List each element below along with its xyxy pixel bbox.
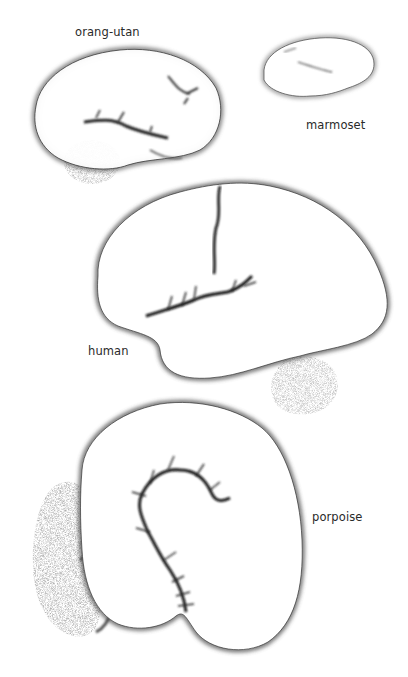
- human-brain: [98, 183, 388, 414]
- porpoise-brain: [33, 402, 302, 649]
- marmoset-brain: [264, 38, 374, 97]
- orangutan-brain: [35, 49, 221, 184]
- brain-comparison-illustration: [0, 0, 408, 677]
- label-marmoset: marmoset: [306, 118, 365, 132]
- label-human: human: [88, 344, 129, 358]
- label-orangutan: orang-utan: [75, 25, 140, 39]
- label-porpoise: porpoise: [312, 510, 362, 524]
